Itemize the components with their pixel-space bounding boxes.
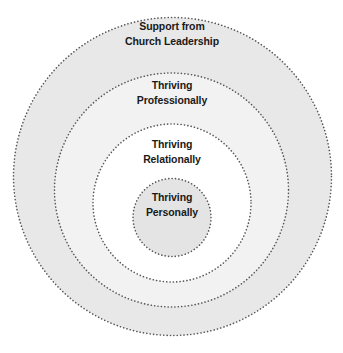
label-support-church-leadership: Support from Church Leadership xyxy=(92,19,252,49)
label-line: Thriving xyxy=(92,137,252,152)
label-line: Church Leadership xyxy=(92,34,252,49)
label-thriving-professionally: Thriving Professionally xyxy=(92,78,252,108)
nested-circles-diagram xyxy=(0,0,343,353)
label-line: Personally xyxy=(92,205,252,220)
label-thriving-personally: Thriving Personally xyxy=(92,190,252,220)
label-line: Thriving xyxy=(92,78,252,93)
label-thriving-relationally: Thriving Relationally xyxy=(92,137,252,167)
label-line: Professionally xyxy=(92,93,252,108)
label-line: Thriving xyxy=(92,190,252,205)
label-line: Support from xyxy=(92,19,252,34)
label-line: Relationally xyxy=(92,152,252,167)
